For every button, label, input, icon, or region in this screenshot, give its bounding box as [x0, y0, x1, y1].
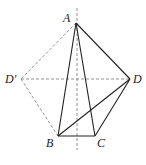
segment-D-prime-B — [21, 79, 58, 136]
label-B: B — [46, 136, 54, 150]
geometry-figure: A D′ D B C — [0, 0, 146, 165]
segment-AD-prime — [21, 23, 76, 79]
label-D: D — [132, 72, 142, 86]
segment-AB — [58, 23, 76, 136]
label-C: C — [97, 136, 106, 150]
label-D-prime: D′ — [4, 72, 17, 86]
segment-CD — [95, 79, 130, 136]
label-A: A — [62, 11, 71, 25]
